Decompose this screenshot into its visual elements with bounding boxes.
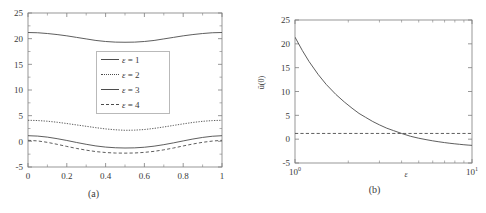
svg-text:20: 20 — [281, 39, 291, 49]
legend-item: ε = 3 — [97, 82, 169, 97]
y-axis-label-b: ū(0) — [257, 76, 266, 89]
plot-b: -50510152025100101 — [243, 0, 486, 213]
x-axis-label-b: ε — [386, 170, 426, 179]
legend-label-2: ε = 2 — [122, 70, 140, 80]
legend-label-1: ε = 1 — [122, 55, 140, 65]
svg-text:10: 10 — [281, 87, 291, 97]
legend-line-sample-1 — [101, 59, 119, 61]
legend-a: ε = 1 ε = 2 ε = 3 ε = 4 — [96, 51, 170, 114]
panel-a: -5051015202500.20.40.60.81 ε = 1 ε = 2 ε… — [0, 0, 243, 213]
panel-b: -50510152025100101 ū(0) ε (b) — [243, 0, 486, 213]
legend-item: ε = 2 — [97, 67, 169, 82]
svg-text:0.2: 0.2 — [61, 171, 72, 181]
panel-a-caption: (a) — [0, 188, 215, 199]
svg-text:0.6: 0.6 — [139, 171, 151, 181]
svg-text:0.8: 0.8 — [178, 171, 190, 181]
svg-text:5: 5 — [19, 111, 24, 121]
svg-text:25: 25 — [14, 8, 24, 18]
series-line — [28, 140, 222, 153]
legend-label-3: ε = 3 — [122, 85, 140, 95]
svg-text:15: 15 — [14, 60, 24, 70]
svg-text:100: 100 — [289, 166, 301, 177]
svg-text:101: 101 — [466, 166, 478, 177]
svg-text:20: 20 — [14, 34, 24, 44]
legend-label-4: ε = 4 — [122, 100, 140, 110]
series-line — [28, 136, 222, 148]
panel-b-caption: (b) — [253, 184, 486, 195]
series-line — [28, 33, 222, 43]
legend-line-sample-4 — [101, 104, 119, 106]
svg-text:15: 15 — [281, 63, 291, 73]
figure-container: -5051015202500.20.40.60.81 ε = 1 ε = 2 ε… — [0, 0, 486, 213]
svg-text:-5: -5 — [16, 162, 24, 172]
series-line — [295, 37, 472, 145]
legend-item: ε = 1 — [97, 52, 169, 67]
svg-text:10: 10 — [14, 85, 24, 95]
svg-text:25: 25 — [281, 15, 291, 25]
legend-line-sample-3 — [101, 89, 119, 91]
legend-item: ε = 4 — [97, 97, 169, 112]
svg-text:0: 0 — [19, 137, 24, 147]
svg-text:5: 5 — [286, 111, 291, 121]
svg-text:0: 0 — [26, 171, 31, 181]
svg-text:1: 1 — [220, 171, 225, 181]
series-line — [28, 120, 222, 130]
svg-text:0: 0 — [286, 134, 291, 144]
legend-line-sample-2 — [101, 74, 119, 76]
svg-text:0.4: 0.4 — [100, 171, 112, 181]
